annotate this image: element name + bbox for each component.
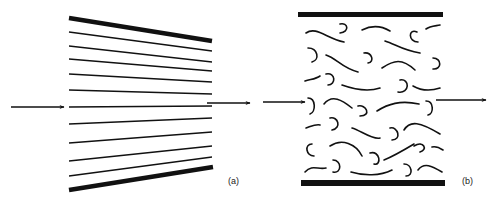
bottom-boundary [69,167,213,190]
panel-label-b: (b) [462,176,473,186]
panel-label-a: (a) [228,176,239,186]
panel-a: (a) [11,18,250,190]
figure: (a) [0,0,495,198]
bottom-bar [301,180,445,186]
top-boundary [69,18,212,41]
oriented-chains [69,32,212,176]
top-bar [298,12,443,17]
coiled-chains [305,24,443,176]
panel-b: (b) [263,12,486,186]
